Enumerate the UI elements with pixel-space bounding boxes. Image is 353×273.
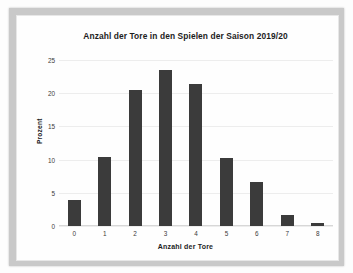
x-tick-label: 0 [72, 230, 76, 237]
x-tick-label: 8 [316, 230, 320, 237]
x-tick-label: 5 [225, 230, 229, 237]
bar [281, 215, 294, 226]
bar [159, 70, 172, 226]
bar-series [59, 60, 333, 226]
plot-area: 0510152025 012345678 [59, 60, 333, 226]
y-tick-label: 15 [48, 123, 55, 130]
x-axis-label: Anzahl der Tore [33, 243, 338, 250]
x-tick-label: 3 [164, 230, 168, 237]
y-tick-label: 10 [48, 156, 55, 163]
bar [189, 84, 202, 226]
x-tick-label: 6 [255, 230, 259, 237]
bar-slot [303, 60, 333, 226]
bar-chart: Anzahl der Tore in den Spielen der Saiso… [33, 31, 338, 266]
bar-slot [120, 60, 150, 226]
bar [220, 158, 233, 226]
bar-slot [272, 60, 302, 226]
bar-slot [59, 60, 89, 226]
x-tick-label: 7 [286, 230, 290, 237]
screenshot-root: Anzahl der Tore in den Spielen der Saiso… [0, 0, 353, 273]
bar [250, 182, 263, 226]
bar [98, 157, 111, 226]
bar [311, 223, 324, 226]
bar-slot [150, 60, 180, 226]
y-tick-label: 5 [51, 189, 55, 196]
chart-frame: Anzahl der Tore in den Spielen der Saiso… [9, 8, 344, 266]
bar-slot [89, 60, 119, 226]
chart-title: Anzahl der Tore in den Spielen der Saiso… [33, 31, 338, 41]
bar [68, 200, 81, 226]
gridline [59, 226, 333, 227]
x-tick-label: 2 [133, 230, 137, 237]
bar-slot [211, 60, 241, 226]
x-tick-label: 1 [103, 230, 107, 237]
y-tick-label: 0 [51, 223, 55, 230]
x-tick-label: 4 [194, 230, 198, 237]
y-tick-label: 25 [48, 57, 55, 64]
bar-slot [242, 60, 272, 226]
chart-paper: Anzahl der Tore in den Spielen der Saiso… [16, 15, 339, 261]
y-axis-label: Prozent [36, 118, 43, 144]
bar [129, 90, 142, 226]
bar-slot [181, 60, 211, 226]
y-tick-label: 20 [48, 90, 55, 97]
